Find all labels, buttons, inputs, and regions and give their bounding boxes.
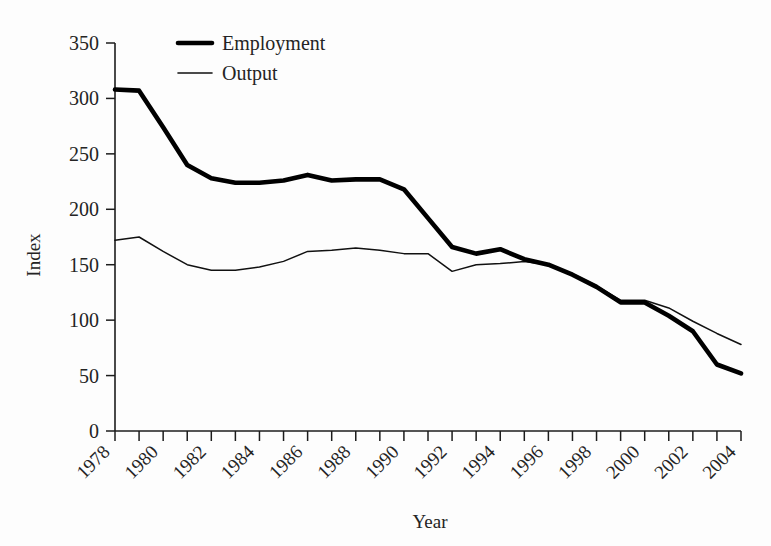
y-tick-label: 100 <box>69 309 99 331</box>
x-tick-label: 2000 <box>602 441 644 483</box>
y-axis-title: Index <box>23 233 44 277</box>
series-line-output <box>115 237 741 345</box>
x-tick-group <box>115 431 741 441</box>
x-tick-label: 1978 <box>72 441 114 483</box>
x-tick-label: 1982 <box>168 441 210 483</box>
y-tick-label: 200 <box>69 198 99 220</box>
y-tick-label: 0 <box>89 420 99 442</box>
y-tick-label: 250 <box>69 143 99 165</box>
x-tick-label: 1990 <box>361 441 403 483</box>
y-tick-label: 350 <box>69 32 99 54</box>
chart-container: 050100150200250300350 197819801982198419… <box>0 0 771 546</box>
line-chart: 050100150200250300350 197819801982198419… <box>0 0 771 546</box>
y-tick-label: 300 <box>69 87 99 109</box>
x-tick-label: 2002 <box>650 441 692 483</box>
x-tick-label: 1980 <box>120 441 162 483</box>
x-axis-title: Year <box>412 511 448 532</box>
x-tick-label: 1998 <box>554 441 596 483</box>
x-tick-label-group: 1978198019821984198619881990199219941996… <box>72 441 740 483</box>
y-tick-label: 50 <box>79 365 99 387</box>
x-tick-label: 1994 <box>457 441 499 483</box>
x-tick-label: 1992 <box>409 441 451 483</box>
axes-group <box>115 43 741 431</box>
y-tick-label-group: 050100150200250300350 <box>69 32 99 442</box>
x-tick-label: 1986 <box>265 441 307 483</box>
x-tick-label: 1988 <box>313 441 355 483</box>
x-tick-label: 2004 <box>698 441 740 483</box>
y-tick-group <box>106 43 115 431</box>
x-tick-label: 1996 <box>505 441 547 483</box>
y-tick-label: 150 <box>69 254 99 276</box>
legend: Employment Output <box>178 32 326 85</box>
legend-label-output: Output <box>222 62 278 85</box>
series-line-employment <box>115 90 741 374</box>
x-tick-label: 1984 <box>217 441 259 483</box>
legend-label-employment: Employment <box>222 32 326 55</box>
